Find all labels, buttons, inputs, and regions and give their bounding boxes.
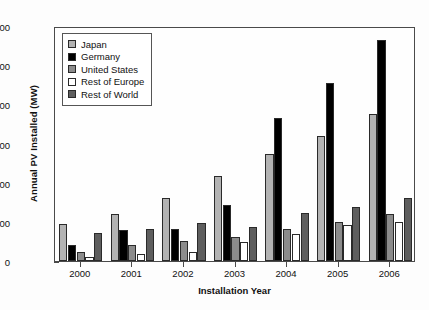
legend-label: Rest of World bbox=[81, 89, 138, 100]
x-tick-label: 2002 bbox=[157, 268, 209, 279]
legend-swatch-icon bbox=[68, 78, 76, 86]
bar-japan-2006 bbox=[369, 114, 377, 261]
bar-japan-2003 bbox=[214, 176, 222, 261]
x-tick-mark bbox=[80, 262, 81, 267]
legend-swatch-icon bbox=[68, 90, 76, 98]
bar-rest-of-world-2006 bbox=[404, 198, 412, 261]
pv-installation-bar-chart: Annual PV Installed (MW) 010020030040050… bbox=[0, 0, 429, 310]
y-tick-label: 200 bbox=[0, 178, 10, 189]
x-tick-mark bbox=[235, 262, 236, 267]
x-tick-mark bbox=[286, 262, 287, 267]
bar-rest-of-europe-2001 bbox=[137, 254, 145, 261]
x-tick-mark bbox=[131, 262, 132, 267]
legend-swatch-icon bbox=[68, 53, 76, 61]
bar-united-states-2006 bbox=[386, 214, 394, 261]
legend-item-rest-of-europe: Rest of Europe bbox=[68, 76, 144, 89]
bar-japan-2004 bbox=[265, 154, 273, 261]
y-tick-mark bbox=[54, 262, 59, 263]
x-tick-label: 2004 bbox=[260, 268, 312, 279]
y-tick-label: 400 bbox=[0, 100, 10, 111]
x-tick-mark bbox=[338, 262, 339, 267]
bar-germany-2000 bbox=[68, 245, 76, 261]
bar-rest-of-europe-2005 bbox=[343, 225, 351, 261]
bar-united-states-2000 bbox=[77, 252, 85, 261]
y-tick-label: 0 bbox=[0, 257, 10, 268]
y-tick-label: 100 bbox=[0, 217, 10, 228]
bar-rest-of-world-2000 bbox=[94, 233, 102, 261]
bar-united-states-2002 bbox=[180, 241, 188, 261]
bar-japan-2001 bbox=[111, 214, 119, 261]
x-tick-label: 2006 bbox=[363, 268, 415, 279]
legend-label: Germany bbox=[81, 51, 120, 62]
bar-germany-2001 bbox=[119, 230, 127, 261]
x-tick-label: 2005 bbox=[312, 268, 364, 279]
legend-item-rest-of-world: Rest of World bbox=[68, 88, 144, 101]
y-tick-label: 600 bbox=[0, 22, 10, 33]
bar-united-states-2004 bbox=[283, 229, 291, 261]
bar-rest-of-europe-2006 bbox=[395, 222, 403, 261]
bar-united-states-2001 bbox=[128, 245, 136, 261]
bar-rest-of-world-2004 bbox=[301, 213, 309, 261]
legend-item-united-states: United States bbox=[68, 63, 144, 76]
bar-germany-2005 bbox=[326, 83, 334, 261]
x-tick-label: 2001 bbox=[105, 268, 157, 279]
x-tick-label: 2000 bbox=[54, 268, 106, 279]
legend-item-japan: Japan bbox=[68, 38, 144, 51]
bar-rest-of-world-2005 bbox=[352, 207, 360, 261]
bar-japan-2005 bbox=[317, 136, 325, 261]
y-axis-title: Annual PV Installed (MW) bbox=[28, 49, 39, 239]
bar-united-states-2005 bbox=[335, 222, 343, 261]
bar-rest-of-europe-2003 bbox=[240, 242, 248, 261]
bar-rest-of-world-2003 bbox=[249, 227, 257, 261]
x-tick-mark bbox=[389, 262, 390, 267]
legend-label: United States bbox=[81, 64, 138, 75]
bar-rest-of-world-2002 bbox=[197, 223, 205, 261]
bar-japan-2000 bbox=[59, 224, 67, 261]
y-tick-label: 500 bbox=[0, 61, 10, 72]
chart-legend: JapanGermanyUnited StatesRest of EuropeR… bbox=[62, 33, 152, 106]
legend-swatch-icon bbox=[68, 40, 76, 48]
y-tick-label: 300 bbox=[0, 139, 10, 150]
x-tick-label: 2003 bbox=[209, 268, 261, 279]
bar-japan-2002 bbox=[162, 198, 170, 261]
legend-label: Rest of Europe bbox=[81, 76, 144, 87]
bar-germany-2006 bbox=[377, 40, 385, 261]
bar-rest-of-europe-2000 bbox=[85, 257, 93, 261]
bar-rest-of-europe-2004 bbox=[292, 234, 300, 261]
x-tick-mark bbox=[183, 262, 184, 267]
bar-germany-2004 bbox=[274, 118, 282, 261]
bar-rest-of-world-2001 bbox=[146, 229, 154, 261]
legend-label: Japan bbox=[81, 39, 107, 50]
bar-united-states-2003 bbox=[231, 237, 239, 261]
legend-item-germany: Germany bbox=[68, 51, 144, 64]
bar-rest-of-europe-2002 bbox=[189, 252, 197, 261]
legend-swatch-icon bbox=[68, 65, 76, 73]
bar-germany-2002 bbox=[171, 229, 179, 261]
x-axis-title: Installation Year bbox=[54, 285, 415, 296]
bar-germany-2003 bbox=[223, 205, 231, 261]
